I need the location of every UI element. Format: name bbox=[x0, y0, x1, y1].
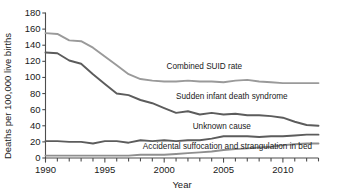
x-tick-label: 2000 bbox=[144, 165, 184, 175]
y-tick-label: 80 bbox=[15, 90, 41, 98]
y-tick-label: 140 bbox=[15, 41, 41, 49]
x-tick-label: 2005 bbox=[204, 165, 244, 175]
series-label-1: Sudden infant death syndrome bbox=[176, 92, 288, 101]
y-tick-label: 120 bbox=[15, 57, 41, 65]
series-label-2: Unknown cause bbox=[193, 122, 251, 131]
x-tick-label: 1995 bbox=[85, 165, 125, 175]
y-tick-label: 60 bbox=[15, 106, 41, 114]
chart-figure: Deaths per 100,000 live births 180160140… bbox=[0, 0, 348, 192]
x-axis-title: Year bbox=[152, 179, 212, 190]
x-tick-label: 2010 bbox=[263, 165, 303, 175]
y-tick-label: 100 bbox=[15, 73, 41, 81]
x-tick-label: 1990 bbox=[26, 165, 66, 175]
y-tick-label: 0 bbox=[15, 154, 41, 162]
y-tick-label: 20 bbox=[15, 138, 41, 146]
series-label-0: Combined SUID rate bbox=[167, 62, 243, 71]
y-tick-label: 160 bbox=[15, 25, 41, 33]
series-label-3: Accidental suffocation and strangulation… bbox=[143, 142, 312, 151]
series-line-0 bbox=[46, 33, 319, 83]
y-tick-label: 40 bbox=[15, 122, 41, 130]
y-tick-label: 180 bbox=[15, 9, 41, 17]
